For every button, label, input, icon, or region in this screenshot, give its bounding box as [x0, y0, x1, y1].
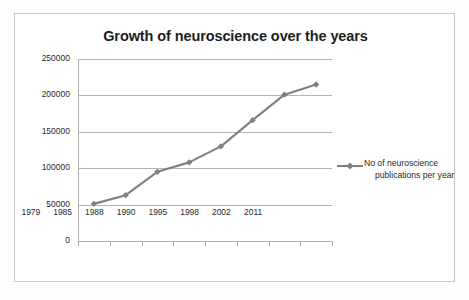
x-axis-tick-label: 1995 — [148, 208, 167, 217]
data-point-marker — [313, 81, 319, 87]
legend-marker-icon — [337, 158, 363, 170]
legend-label-line-1: No of neuroscience — [364, 158, 438, 168]
y-axis-tick-label: 150000 — [42, 127, 70, 136]
x-axis-tick — [173, 241, 174, 246]
x-axis-tick-label: 1998 — [180, 208, 199, 217]
x-axis-tick — [300, 241, 301, 246]
y-axis-tick-label: 200000 — [42, 90, 70, 99]
y-axis-tick-label: 250000 — [42, 54, 70, 63]
x-axis-tick — [332, 241, 333, 246]
legend-label: No of neuroscience publications per year — [364, 157, 454, 181]
x-axis-tick-label: 2011 — [244, 208, 262, 217]
y-axis-tick-label: 100000 — [42, 163, 70, 172]
x-axis-tick-label: 1985 — [53, 208, 72, 217]
x-axis-tick-label: 1990 — [117, 208, 136, 217]
chart-container: Growth of neuroscience over the years 05… — [14, 13, 455, 282]
x-axis-tick — [78, 241, 79, 246]
x-axis-tick — [237, 241, 238, 246]
x-axis-tick — [269, 241, 270, 246]
x-axis-tick-label: 2002 — [212, 208, 231, 217]
y-axis-tick-label: 0 — [65, 236, 70, 245]
x-axis-tick — [110, 241, 111, 246]
scanned-page-background: Growth of neuroscience over the years 05… — [0, 0, 469, 300]
legend-label-line-2: publications per year — [364, 169, 454, 181]
x-axis-tick — [205, 241, 206, 246]
chart-legend: No of neuroscience publications per year — [337, 157, 455, 181]
x-axis-tick-label: 1979 — [21, 208, 40, 217]
x-axis-tick-label: 1988 — [85, 208, 104, 217]
x-axis-tick — [142, 241, 143, 246]
chart-title: Growth of neuroscience over the years — [15, 28, 456, 44]
x-axis-tick-labels: 19791985198819901995199820022011 — [15, 208, 269, 222]
